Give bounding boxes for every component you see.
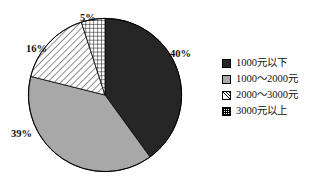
legend-label-1000-2000: 1000～2000元 xyxy=(236,74,298,85)
legend-item-3000-above[interactable]: 3000元以上 xyxy=(222,103,316,119)
slice-label-3000-above: 5% xyxy=(80,13,96,24)
pie-chart-figure: 40% 39% 16% 5% 1000元以下 1000～2000元 2000～3… xyxy=(0,0,316,193)
legend-item-1000-below[interactable]: 1000元以下 xyxy=(222,55,316,71)
legend-swatch-crosshatch-icon xyxy=(222,107,231,116)
legend-swatch-diagonal-hatch-icon xyxy=(222,91,231,100)
slice-label-2000-3000: 16% xyxy=(26,44,47,55)
legend-item-2000-3000[interactable]: 2000～3000元 xyxy=(222,87,316,103)
pie-plot-area: 40% 39% 16% 5% xyxy=(0,0,210,193)
slice-label-1000-below: 40% xyxy=(170,49,191,60)
legend-label-1000-below: 1000元以下 xyxy=(236,58,287,69)
legend-label-2000-3000: 2000～3000元 xyxy=(236,90,298,101)
legend-item-1000-2000[interactable]: 1000～2000元 xyxy=(222,71,316,87)
chart-legend: 1000元以下 1000～2000元 2000～3000元 3000元以上 xyxy=(222,55,316,119)
legend-label-3000-above: 3000元以上 xyxy=(236,106,287,117)
legend-swatch-solid-gray-icon xyxy=(222,75,231,84)
pie-svg xyxy=(26,16,184,174)
slice-label-1000-2000: 39% xyxy=(11,129,32,140)
legend-swatch-solid-dark-icon xyxy=(222,59,231,68)
